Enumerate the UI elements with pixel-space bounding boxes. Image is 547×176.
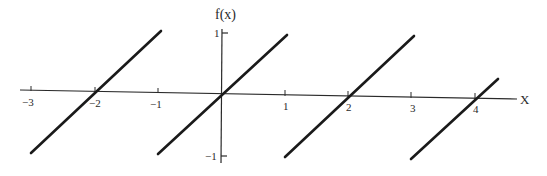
y-tick-label: −1	[205, 151, 217, 162]
x-axis-label: X	[520, 93, 529, 106]
sawtooth-plot	[0, 0, 547, 176]
y-tick-label: 1	[214, 28, 220, 39]
segment-4	[411, 79, 498, 159]
y-axis-label: f(x)	[215, 8, 236, 22]
x-tick-label: −2	[89, 98, 101, 109]
x-tick-label: 1	[283, 101, 289, 112]
x-tick-label: −3	[22, 97, 34, 108]
x-tick-label: 3	[410, 103, 416, 114]
x-tick-label: −1	[150, 99, 162, 110]
x-tick-label: 2	[346, 102, 352, 113]
x-tick-label: 4	[473, 104, 479, 115]
